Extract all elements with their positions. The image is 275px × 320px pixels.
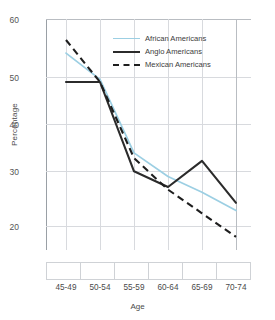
x-axis-title: Age bbox=[0, 302, 275, 311]
line-solid-blue-swatch bbox=[113, 34, 140, 44]
x-tick-label-70-74: 70-74 bbox=[216, 283, 256, 292]
y-tick-label-20: 20 bbox=[0, 222, 19, 232]
legend-label-anglo-americans: Anglo Americans bbox=[145, 47, 202, 56]
chart-legend: African Americans Anglo Americans Mexica… bbox=[113, 32, 211, 71]
legend-label-african-americans: African Americans bbox=[145, 34, 206, 43]
line-chart-figure: Percentage 60 50 40 30 20 African Americ… bbox=[0, 0, 275, 320]
legend-item-anglo-americans: Anglo Americans bbox=[113, 45, 211, 58]
x-category-strip bbox=[46, 262, 251, 280]
x-category-cell-50-54 bbox=[81, 263, 115, 279]
x-category-cell-65-69 bbox=[183, 263, 217, 279]
x-category-cell-45-49 bbox=[47, 263, 81, 279]
line-dashed-black-swatch bbox=[113, 60, 140, 70]
legend-item-african-americans: African Americans bbox=[113, 32, 211, 45]
legend-label-mexican-americans: Mexican Americans bbox=[145, 60, 211, 69]
legend-item-mexican-americans: Mexican Americans bbox=[113, 58, 211, 71]
line-solid-black-swatch bbox=[113, 47, 140, 57]
y-tick-label-40: 40 bbox=[0, 120, 19, 130]
y-tick-label-50: 50 bbox=[0, 73, 19, 83]
y-tick-label-30: 30 bbox=[0, 167, 19, 177]
series-line-anglo-americans bbox=[66, 82, 236, 203]
series-line-african-americans bbox=[66, 53, 236, 211]
x-category-cell-55-59 bbox=[115, 263, 149, 279]
y-tick-label-60: 60 bbox=[0, 15, 19, 25]
x-category-cell-60-64 bbox=[149, 263, 183, 279]
x-category-cell-70-74 bbox=[217, 263, 250, 279]
x-tick-labels: 45-49 50-54 55-59 60-64 65-69 70-74 bbox=[30, 283, 270, 295]
